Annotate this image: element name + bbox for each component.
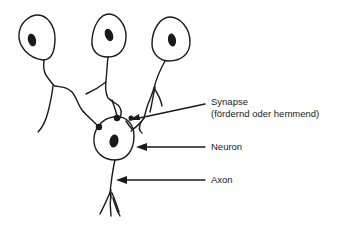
presynaptic-cell-body-1	[19, 15, 55, 60]
nucleus-2	[103, 28, 115, 43]
postsynaptic-nucleus	[108, 134, 119, 148]
presynaptic-branch-2	[86, 82, 106, 94]
synapse-dot-right	[129, 116, 134, 121]
axon-label: Axon	[211, 174, 233, 186]
axon-terminal-2	[110, 192, 111, 216]
axon-terminal-3	[112, 193, 119, 212]
synapse-sublabel: (fördernd oder hemmend)	[211, 108, 319, 120]
axon-terminal-1	[100, 190, 111, 214]
synapse-label: Synapse	[211, 96, 248, 108]
presynaptic-branch-1	[38, 86, 53, 132]
presynaptic-branch-3d	[139, 122, 142, 133]
presynaptic-axon-2	[106, 57, 121, 118]
neuron-label: Neuron	[211, 141, 242, 153]
neuron-diagram: Synapse (fördernd oder hemmend) Neuron A…	[0, 0, 351, 230]
nucleus-3	[167, 33, 177, 47]
axon-terminal-4	[113, 198, 120, 216]
synapse-dot-left	[96, 124, 102, 130]
synapse-pointer-line	[130, 104, 205, 120]
neuron-arrowhead-icon	[136, 143, 147, 151]
synapse-dot-middle	[114, 115, 120, 121]
presynaptic-branch-3b	[154, 88, 162, 106]
nucleus-1	[26, 33, 37, 48]
axon-arrowhead-icon	[116, 176, 127, 184]
